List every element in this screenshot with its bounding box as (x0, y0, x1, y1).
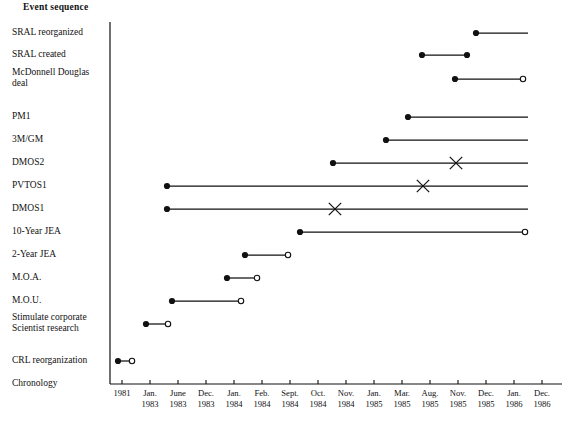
event-row-1 (419, 52, 470, 58)
event-start-filled-dot (419, 52, 425, 58)
event-row-8 (297, 229, 528, 235)
event-end-open-circle (238, 298, 243, 303)
event-row-7 (164, 203, 528, 215)
event-row-0 (473, 30, 528, 36)
event-start-filled-dot (383, 137, 389, 143)
event-row-6 (164, 180, 528, 192)
event-start-filled-dot (224, 275, 230, 281)
event-row-13 (115, 358, 135, 364)
event-end-open-circle (129, 358, 134, 363)
event-row-11 (169, 298, 244, 304)
event-start-filled-dot (242, 252, 248, 258)
event-row-9 (242, 252, 291, 258)
event-row-4 (383, 137, 528, 143)
event-row-5 (330, 157, 528, 169)
event-sequence-chart: Event sequence SRAL reorganizedSRAL crea… (0, 0, 580, 427)
event-start-filled-dot (297, 229, 303, 235)
event-end-open-circle (285, 252, 290, 257)
event-start-filled-dot (405, 114, 411, 120)
event-row-3 (405, 114, 528, 120)
event-end-open-circle (254, 275, 259, 280)
chart-series-group (115, 30, 528, 364)
event-end-open-circle (165, 321, 170, 326)
event-start-filled-dot (143, 321, 149, 327)
event-start-filled-dot (169, 298, 175, 304)
event-row-10 (224, 275, 260, 281)
event-start-filled-dot (164, 183, 170, 189)
chart-axes (110, 22, 562, 384)
event-start-filled-dot (452, 76, 458, 82)
event-row-2 (452, 76, 526, 82)
event-end-open-circle (522, 229, 527, 234)
event-end-open-circle (520, 76, 525, 81)
event-start-filled-dot (473, 30, 479, 36)
event-start-filled-dot (164, 206, 170, 212)
event-start-filled-dot (115, 358, 121, 364)
event-row-12 (143, 321, 171, 327)
event-start-filled-dot (330, 160, 336, 166)
chart-plot-area (0, 0, 580, 427)
event-end-filled-dot (464, 52, 470, 58)
